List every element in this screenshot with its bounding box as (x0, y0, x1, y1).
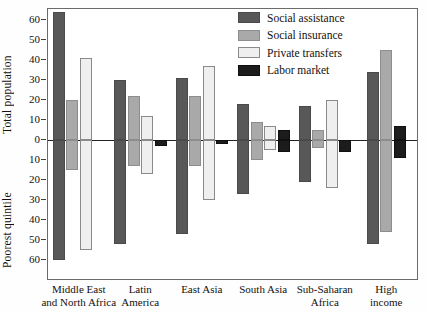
bar-1-down (312, 140, 324, 148)
bar-2-down (203, 140, 215, 200)
bar-0-down (367, 140, 379, 244)
bar-2-up (264, 126, 276, 140)
bar-group (53, 9, 106, 279)
y-axis-title-poorest-quintile: Poorest quintile (1, 156, 13, 268)
bar-3-down (278, 140, 290, 152)
y-tick-label: 10 (20, 114, 40, 125)
bar-0-down (299, 140, 311, 182)
y-tick-label: 0 (20, 134, 40, 145)
legend-item[interactable]: Social insurance (238, 29, 388, 42)
y-tick-mark (41, 79, 46, 80)
bar-0-up (237, 104, 249, 140)
bar-3-down (155, 140, 167, 146)
y-tick-label: 40 (20, 214, 40, 225)
legend-swatch-icon (238, 30, 260, 41)
bar-2-up (141, 116, 153, 140)
y-tick-label: 20 (20, 174, 40, 185)
y-tick-label: 10 (20, 154, 40, 165)
bar-3-down (394, 140, 406, 158)
y-tick-mark (41, 179, 46, 180)
bar-2-up (203, 66, 215, 140)
bar-0-down (237, 140, 249, 194)
y-tick-mark (41, 99, 46, 100)
y-tick-label: 30 (20, 74, 40, 85)
bar-0-up (299, 106, 311, 140)
bar-0-up (176, 78, 188, 140)
legend-label: Labor market (267, 64, 329, 76)
y-tick-mark (41, 19, 46, 20)
y-tick-label: 60 (20, 14, 40, 25)
bar-1-up (189, 96, 201, 140)
y-axis-title-total-population: Total population (1, 24, 13, 134)
y-tick-mark (41, 39, 46, 40)
bar-2-down (80, 140, 92, 250)
bar-2-down (264, 140, 276, 150)
bar-1-up (128, 96, 140, 140)
bar-0-down (176, 140, 188, 234)
bar-1-up (312, 130, 324, 140)
y-tick-mark (41, 199, 46, 200)
legend-label: Private transfers (267, 47, 342, 59)
y-tick-mark (41, 59, 46, 60)
bar-1-down (251, 140, 263, 160)
y-tick-label: 30 (20, 194, 40, 205)
y-tick-mark (41, 259, 46, 260)
legend-item[interactable]: Labor market (238, 64, 388, 77)
legend-item[interactable]: Private transfers (238, 46, 388, 59)
bar-3-up (394, 126, 406, 140)
x-axis-label-line: High (342, 283, 426, 296)
x-axis-label-line: America (96, 296, 186, 309)
bar-1-down (66, 140, 78, 170)
bar-2-down (326, 140, 338, 188)
bar-3-up (278, 130, 290, 140)
bar-2-up (80, 58, 92, 140)
y-tick-label: 20 (20, 94, 40, 105)
bar-2-down (141, 140, 153, 174)
legend-label: Social insurance (267, 29, 343, 41)
bar-1-down (128, 140, 140, 166)
chart-container: Total population Poorest quintile 010203… (0, 0, 426, 312)
y-tick-mark (41, 239, 46, 240)
bar-0-down (53, 140, 65, 260)
bar-1-up (66, 100, 78, 140)
legend-swatch-icon (238, 65, 260, 76)
bar-0-down (114, 140, 126, 244)
y-tick-mark (41, 159, 46, 160)
bar-2-up (326, 100, 338, 140)
y-tick-label: 50 (20, 34, 40, 45)
bar-1-up (251, 122, 263, 140)
x-axis-label: Highincome (342, 283, 426, 308)
bar-group (114, 9, 167, 279)
y-axis-tick-labels: 0102030405060102030405060 (18, 0, 40, 290)
bar-0-up (114, 80, 126, 140)
bar-0-up (367, 72, 379, 140)
y-tick-label: 40 (20, 54, 40, 65)
legend-item[interactable]: Social assistance (238, 11, 388, 24)
legend-swatch-icon (238, 12, 260, 23)
bar-1-down (189, 140, 201, 166)
y-tick-mark (41, 139, 46, 140)
bar-group (176, 9, 229, 279)
y-tick-mark (41, 219, 46, 220)
y-tick-label: 60 (20, 254, 40, 265)
bar-3-down (216, 140, 228, 144)
bar-1-down (380, 140, 392, 232)
bar-0-up (53, 12, 65, 140)
y-tick-mark (41, 119, 46, 120)
legend-swatch-icon (238, 47, 260, 58)
x-axis-label-line: income (342, 296, 426, 309)
legend-label: Social assistance (267, 12, 345, 24)
y-tick-label: 50 (20, 234, 40, 245)
bar-3-down (339, 140, 351, 152)
chart-legend: Social assistanceSocial insurancePrivate… (238, 11, 388, 81)
